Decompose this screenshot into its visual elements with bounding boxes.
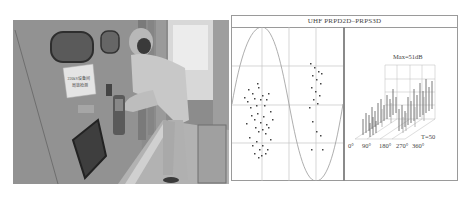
field-test-photo: 220kV设备间 局放检测 <box>13 20 229 184</box>
x-tick-270: 270° <box>396 142 408 149</box>
svg-text:局放检测: 局放检测 <box>72 82 88 88</box>
uhf-analysis-panel: UHF PRPD2D–PRPS3D <box>231 15 458 181</box>
photo-scene: 220kV设备间 局放检测 <box>13 20 229 184</box>
x-tick-180: 180° <box>379 142 391 149</box>
sine-reference-curve <box>232 27 343 181</box>
x-tick-90: 90° <box>362 142 371 149</box>
prpd-plot <box>232 27 343 181</box>
grid-lines <box>232 27 343 181</box>
prpd-2d-chart <box>232 27 345 181</box>
prps-plot <box>345 27 457 181</box>
x-tick-360: 360° <box>412 142 424 149</box>
prps-pulse-bars <box>363 79 432 137</box>
cabinet-label: 220kV设备间 <box>68 75 91 81</box>
max-amplitude-label: Max=51dB <box>393 53 423 60</box>
depth-label: T=50 <box>421 133 435 140</box>
prps-3d-chart: Max=51dB <box>345 27 457 181</box>
x-tick-0: 0° <box>348 142 354 149</box>
